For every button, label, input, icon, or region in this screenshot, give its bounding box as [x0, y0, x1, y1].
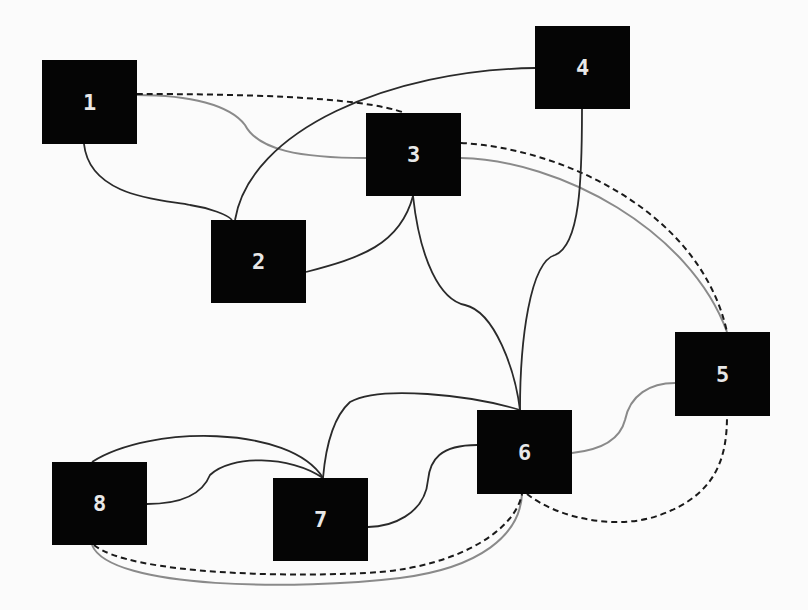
node-2[interactable]: 2 [211, 220, 306, 303]
node-label: 5 [716, 362, 729, 387]
edge-3-6-solid-dark [413, 196, 520, 410]
edge-3-5-dashed [461, 143, 727, 332]
node-label: 4 [576, 55, 589, 80]
node-1[interactable]: 1 [42, 60, 137, 144]
node-label: 1 [83, 90, 96, 115]
node-label: 2 [252, 249, 265, 274]
edge-2-3-solid-dark [306, 196, 413, 272]
edge-3-5-solid-gray [461, 158, 727, 332]
node-7[interactable]: 7 [273, 478, 368, 561]
node-6[interactable]: 6 [477, 410, 572, 494]
node-3[interactable]: 3 [366, 113, 461, 196]
node-label: 6 [518, 440, 531, 465]
node-label: 7 [314, 507, 327, 532]
edge-1-3-solid-gray [137, 95, 366, 158]
node-label: 3 [407, 142, 420, 167]
node-4[interactable]: 4 [535, 26, 630, 109]
edge-4-6-solid-dark [520, 109, 582, 410]
node-8[interactable]: 8 [52, 462, 147, 545]
graph-diagram: 12345678 [0, 0, 808, 610]
edge-1-2-solid-dark [84, 144, 232, 220]
node-label: 8 [93, 491, 106, 516]
node-5[interactable]: 5 [675, 332, 770, 416]
edge-6-5-solid-gray [572, 383, 675, 453]
edge-6-7-solid-dark [368, 445, 477, 527]
